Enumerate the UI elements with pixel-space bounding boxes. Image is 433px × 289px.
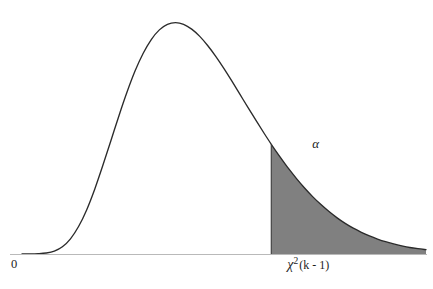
chart-canvas: [0, 0, 433, 289]
alpha-area-label: α: [312, 137, 319, 150]
chi-squared-distribution-figure: 0 α χ2(k - 1): [0, 0, 433, 289]
critical-value-label: χ2(k - 1): [287, 258, 329, 272]
x-axis-origin-label: 0: [11, 258, 17, 271]
chi-exponent: 2: [293, 256, 298, 266]
shaded-tail-region: [271, 144, 426, 254]
degrees-of-freedom-text: (k - 1): [299, 258, 329, 272]
density-curve: [22, 23, 426, 254]
